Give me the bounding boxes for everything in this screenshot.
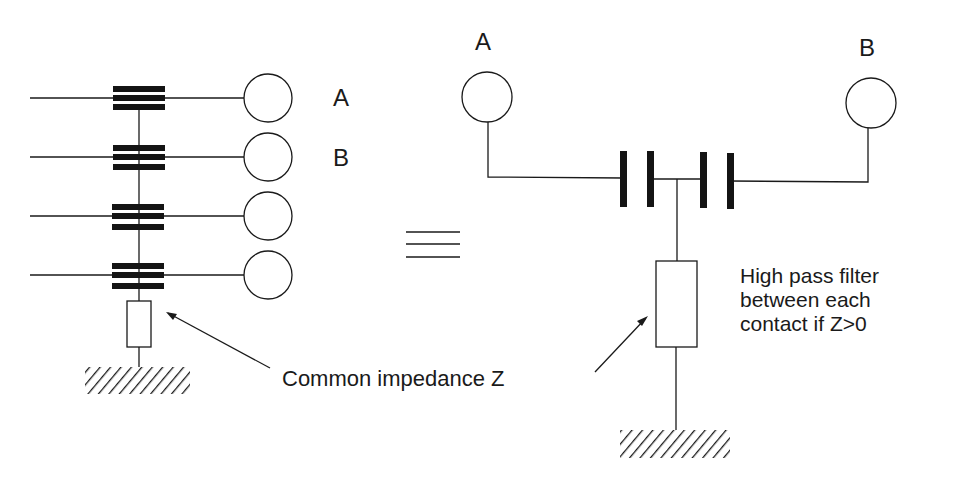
contact-b-icon [244,133,292,181]
note-line-2: between each [740,288,871,312]
right-arrow-head-icon [637,316,648,326]
right-impedance-icon [656,261,697,347]
right-wire-a [488,122,623,178]
right-label-b: B [859,36,875,60]
capacitor-stack-2-icon [113,145,165,170]
right-label-a: A [475,30,491,54]
capacitor-stack-1-icon [113,86,165,110]
contact-3-icon [244,192,292,240]
circuit-diagram [0,0,954,481]
note-line-1: High pass filter [740,264,879,288]
right-contact-a-icon [462,72,512,122]
capacitor-stack-3-icon [112,204,164,230]
contact-4-icon [244,251,292,299]
capacitor-1-plate-left-icon [620,151,627,207]
right-arrow-line [595,319,645,372]
note-line-3: contact if Z>0 [740,312,867,336]
contact-a-icon [244,74,292,122]
capacitor-2-plate-left-icon [700,152,707,208]
left-circuit [30,74,292,368]
left-arrow-head-icon [166,312,177,320]
capacitor-stack-4-icon [112,263,164,289]
capacitor-1-plate-right-icon [647,151,654,207]
right-ground-icon [620,430,730,458]
left-label-a: A [333,86,349,110]
left-arrow-line [168,313,270,368]
right-circuit [462,72,896,430]
left-impedance-icon [127,301,151,347]
left-ground-icon [85,367,190,394]
equivalence-icon [406,232,460,257]
common-impedance-label: Common impedance Z [282,368,505,390]
capacitor-2-plate-right-icon [727,153,734,209]
right-wire-b [730,128,868,182]
left-label-b: B [333,146,349,170]
right-contact-b-icon [846,78,896,128]
